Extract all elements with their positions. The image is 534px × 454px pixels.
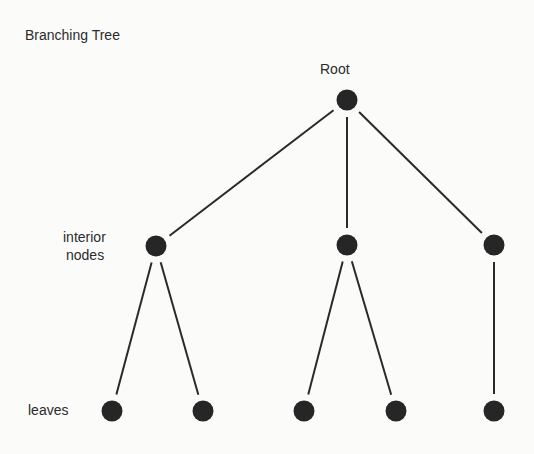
tree-node-l1 [102,401,123,422]
tree-node-i1 [146,236,167,257]
tree-node-i3 [484,235,505,256]
tree-edge [352,261,391,394]
tree-node-l2 [193,401,214,422]
diagram-canvas: Branching Tree Root interior nodes leave… [0,0,534,454]
tree-node-l4 [386,401,407,422]
tree-node-i2 [337,235,358,256]
tree-edge [308,261,342,394]
tree-edge [116,262,151,394]
tree-edge [359,112,482,233]
tree-graph [0,0,534,454]
tree-node-l3 [294,401,315,422]
tree-edge [170,110,334,235]
tree-edge [161,262,199,394]
tree-node-root [337,90,358,111]
tree-node-l5 [484,401,505,422]
